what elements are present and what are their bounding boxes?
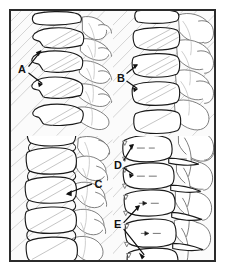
vertebral-bodies-lumbar xyxy=(25,136,77,261)
panel-b-drawing: B xyxy=(113,11,215,136)
panel-top-right[interactable]: B xyxy=(113,11,215,137)
panel-c-drawing: C xyxy=(11,136,113,261)
callout-d-label: D xyxy=(113,159,121,171)
panel-de-drawing: D E xyxy=(113,136,215,261)
figure-root: A xyxy=(0,0,225,274)
panel-bottom-right[interactable]: D E xyxy=(113,136,215,261)
figure-frame: A xyxy=(9,9,216,262)
panel-top-left[interactable]: A xyxy=(11,11,114,137)
vertebral-bodies-lumbar xyxy=(122,136,177,261)
panel-a-drawing: A xyxy=(11,11,113,136)
callout-e-label: E xyxy=(113,218,120,230)
panel-bottom-left[interactable]: C xyxy=(11,136,114,261)
callout-b-label: B xyxy=(116,72,124,84)
callout-a-label: A xyxy=(18,63,26,75)
callout-c-label: C xyxy=(95,178,103,190)
posterior-elements xyxy=(174,13,213,129)
